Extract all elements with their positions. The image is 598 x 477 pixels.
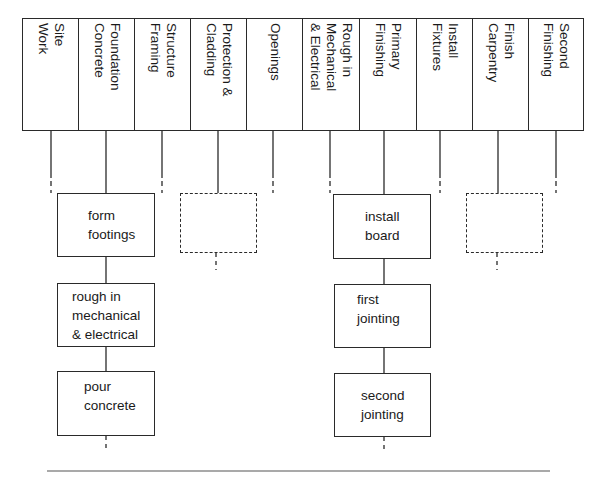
task-rough-in-mech-elec: rough in mechanical & electrical	[57, 283, 155, 347]
task-label: rough in mechanical & electrical	[72, 287, 140, 344]
task-placeholder-finish-carpentry	[466, 193, 543, 253]
diagram-canvas: Site Work Foundation Concrete Structure …	[0, 0, 598, 477]
task-pour-concrete: pour concrete	[57, 371, 155, 436]
task-form-footings: form footings	[57, 193, 155, 257]
task-label: form footings	[88, 206, 135, 244]
task-placeholder-protection	[180, 193, 257, 253]
task-label: pour concrete	[84, 377, 136, 415]
task-install-board: install board	[333, 194, 431, 259]
task-label: second jointing	[361, 386, 405, 424]
task-label: first jointing	[357, 290, 400, 328]
task-label: install board	[365, 207, 400, 245]
task-first-jointing: first jointing	[334, 284, 431, 348]
task-second-jointing: second jointing	[334, 373, 431, 437]
